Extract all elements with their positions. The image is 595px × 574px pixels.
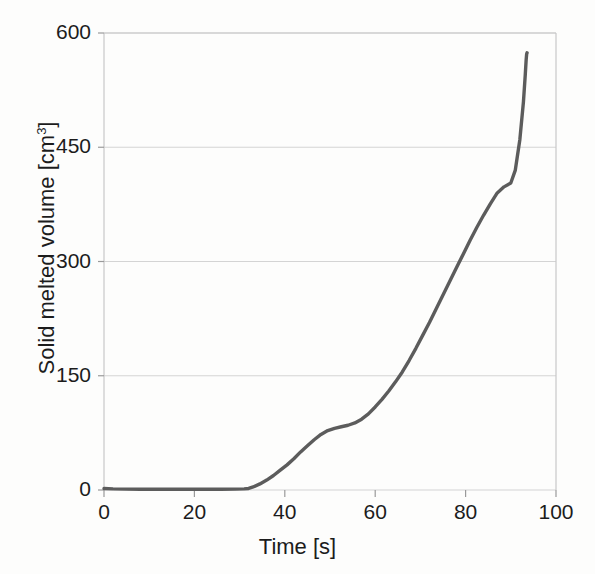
x-tick-label: 20 [164, 500, 224, 524]
gridlines [104, 33, 556, 490]
x-tick-label: 100 [526, 500, 586, 524]
y-axis-title-container: Solid melted volume [cm3] [34, 58, 74, 438]
x-axis-title: Time [s] [0, 534, 595, 560]
y-axis-title-superscript: 3 [34, 128, 49, 135]
x-tick-label: 0 [74, 500, 134, 524]
y-tick-label: 0 [21, 477, 91, 501]
axis-ticks [98, 33, 556, 497]
y-tick-label: 600 [21, 20, 91, 44]
data-series-line [104, 53, 527, 489]
chart-figure: 0 150 300 450 600 0 20 40 60 80 100 Time… [0, 0, 595, 574]
x-tick-label: 40 [255, 500, 315, 524]
y-axis-title-main: Solid melted volume [cm [34, 135, 59, 375]
y-axis-title-tail: ] [34, 122, 59, 128]
y-axis-title: Solid melted volume [cm3] [34, 122, 59, 375]
x-tick-label: 60 [345, 500, 405, 524]
x-tick-label: 80 [436, 500, 496, 524]
